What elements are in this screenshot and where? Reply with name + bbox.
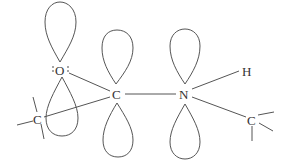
hydrogen-label: H (242, 64, 251, 79)
carbon-lower-lobe (103, 103, 133, 157)
oxygen-lone-pair-dot-left (52, 66, 54, 68)
bond-leftc-c (44, 97, 110, 117)
oxygen-lone-pair-dot-right (67, 66, 69, 68)
oxygen-lone-pair-dot-left2 (52, 70, 54, 72)
leftc-stub-up (33, 97, 37, 112)
bond-n-h (192, 71, 239, 89)
bond-n-rightc (192, 97, 246, 117)
amide-orbital-diagram: O C N H C C (0, 0, 292, 168)
carbon-upper-lobe (102, 30, 133, 84)
nitrogen-lower-lobe (170, 104, 200, 159)
left-carbon-label: C (33, 112, 42, 127)
rightc-stub-upright (258, 112, 274, 115)
carbonyl-carbon-label: C (112, 87, 121, 102)
nitrogen-label: N (179, 87, 189, 102)
nitrogen-upper-lobe (170, 29, 200, 84)
oxygen-upper-lobe (45, 2, 76, 62)
bond-o-c (69, 73, 110, 91)
oxygen-label: O (55, 63, 64, 78)
oxygen-lower-lobe (46, 77, 78, 136)
rightc-stub-downright (259, 123, 273, 131)
oxygen-lone-pair-dot-right2 (67, 70, 69, 72)
leftc-stub-left (17, 121, 33, 125)
right-carbon-label: C (247, 113, 256, 128)
